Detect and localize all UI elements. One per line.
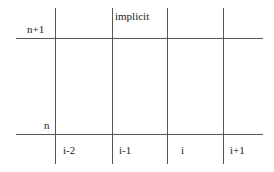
column-label-i-minus-2: i-2	[63, 144, 75, 156]
grid-line-i-minus-1	[112, 8, 113, 164]
row-label-n-plus-1: n+1	[27, 23, 44, 35]
column-label-i-minus-1: i-1	[119, 144, 131, 156]
row-label-n: n	[44, 119, 50, 131]
time-level-n-plus-1-line	[16, 38, 263, 39]
column-label-i: i	[181, 144, 184, 156]
grid-line-i-minus-2	[55, 8, 56, 164]
time-level-n-line	[16, 134, 263, 135]
implicit-label: implicit	[115, 10, 149, 22]
column-label-i-plus-1: i+1	[230, 144, 245, 156]
grid-line-i	[167, 8, 168, 164]
grid-line-i-plus-1	[223, 8, 224, 164]
